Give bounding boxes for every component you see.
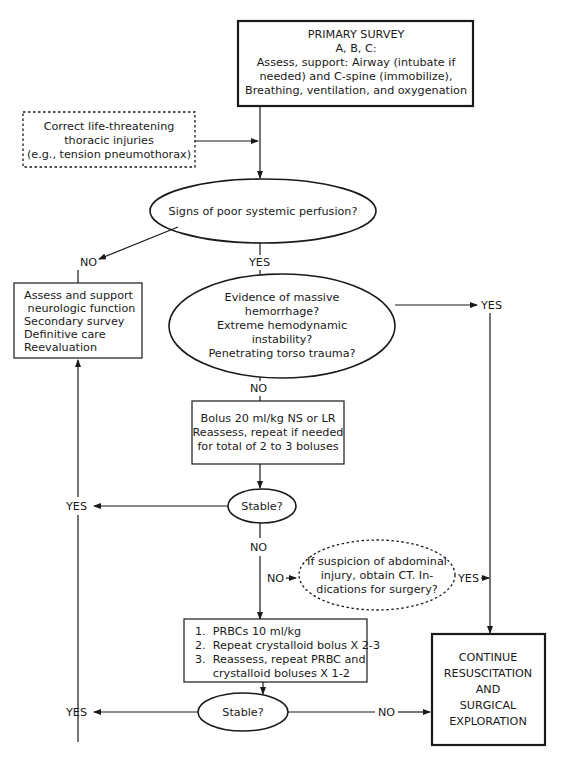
label-yes-stable-1: YES (65, 500, 87, 513)
hemorrhage-line: Evidence of massive (225, 291, 340, 304)
primary-survey-line: needed) and C-spine (immobilize), (259, 70, 452, 83)
hemorrhage-line: instability? (252, 333, 313, 346)
neuro-line: Secondary survey (24, 315, 125, 328)
primary-survey-line: PRIMARY SURVEY (308, 28, 405, 41)
label-yes-perfusion: YES (248, 256, 270, 269)
primary-survey-box: PRIMARY SURVEY A, B, C: Assess, support:… (238, 21, 473, 106)
prbc-line: 3. Reassess, repeat PRBC and (195, 653, 366, 666)
hemorrhage-decision: Evidence of massive hemorrhage? Extreme … (169, 274, 395, 378)
label-yes-stable-2: YES (65, 706, 87, 719)
perfusion-decision: Signs of poor systemic perfusion? (150, 179, 376, 243)
neuro-line: Assess and support (24, 289, 134, 302)
thoracic-injuries-box: Correct life-threatening thoracic injuri… (23, 112, 195, 167)
connector-arrow (99, 227, 178, 259)
thoracic-line: Correct life-threatening (44, 120, 175, 133)
bolus-line: Reassess, repeat if needed (193, 426, 344, 439)
bolus-box: Bolus 20 ml/kg NS or LR Reassess, repeat… (192, 401, 344, 464)
ct-line: If suspicion of abdominal (307, 555, 447, 568)
surgery-line: AND (476, 683, 501, 696)
primary-survey-line: Assess, support: Airway (intubate if (257, 56, 457, 69)
label-no-perfusion: NO (80, 256, 97, 269)
stable-1-text: Stable? (241, 500, 282, 513)
neuro-line: Definitive care (24, 328, 106, 341)
stable-2-text: Stable? (222, 706, 263, 719)
trauma-resuscitation-flowchart: PRIMARY SURVEY A, B, C: Assess, support:… (0, 0, 562, 759)
surgery-line: SURGICAL (460, 699, 517, 712)
prbc-box: 1. PRBCs 10 ml/kg 2. Repeat crystalloid … (184, 619, 380, 682)
ct-line: dications for surgery? (316, 583, 437, 596)
stable-decision-2: Stable? (198, 693, 288, 731)
neuro-line: Reevaluation (24, 341, 97, 354)
label-yes-ct: YES (457, 572, 479, 585)
label-no-hemorrhage: NO (250, 382, 267, 395)
surgery-line: RESUSCITATION (444, 667, 532, 680)
hemorrhage-line: Penetrating torso trauma? (209, 347, 356, 360)
surgery-line: CONTINUE (459, 651, 518, 664)
label-no-stable-1: NO (250, 541, 267, 554)
thoracic-line: thoracic injuries (64, 134, 154, 147)
ct-decision: If suspicion of abdominal injury, obtain… (299, 540, 455, 610)
label-no-stable-2: NO (378, 706, 395, 719)
bolus-line: for total of 2 to 3 boluses (197, 440, 338, 453)
prbc-line: crystalloid boluses X 1-2 (195, 667, 350, 680)
perfusion-text: Signs of poor systemic perfusion? (169, 205, 358, 218)
primary-survey-line: A, B, C: (335, 42, 376, 55)
prbc-line: 2. Repeat crystalloid bolus X 2-3 (195, 639, 380, 652)
hemorrhage-line: Extreme hemodynamic (217, 319, 347, 332)
primary-survey-line: Breathing, ventilation, and oxygenation (245, 84, 467, 97)
label-no-ct: NO (267, 572, 284, 585)
hemorrhage-line: hemorrhage? (245, 305, 319, 318)
neuro-assessment-box: Assess and support neurologic function S… (14, 283, 142, 358)
surgery-line: EXPLORATION (449, 715, 527, 728)
neuro-line: neurologic function (24, 302, 135, 315)
bolus-line: Bolus 20 ml/kg NS or LR (201, 412, 336, 425)
ct-line: injury, obtain CT. In- (321, 569, 434, 582)
thoracic-line: (e.g., tension pneumothorax) (27, 148, 191, 161)
label-yes-hemorrhage: YES (480, 299, 502, 312)
prbc-line: 1. PRBCs 10 ml/kg (195, 625, 301, 638)
surgery-box: CONTINUE RESUSCITATION AND SURGICAL EXPL… (432, 634, 545, 745)
stable-decision-1: Stable? (228, 489, 296, 523)
